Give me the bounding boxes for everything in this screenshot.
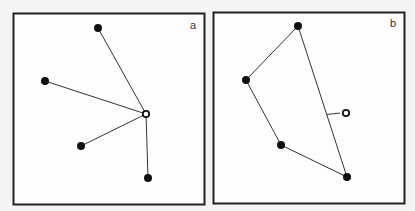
panel-b-frame [214, 13, 405, 204]
filled-point [242, 76, 250, 84]
figure: a b [0, 0, 415, 211]
panel-b: b [214, 13, 405, 204]
filled-point [294, 22, 302, 30]
filled-point [41, 77, 49, 85]
panel-a-frame [14, 14, 205, 205]
open-point [343, 110, 349, 116]
panel-a: a [14, 14, 205, 205]
open-point [143, 111, 149, 117]
filled-point [77, 142, 85, 150]
filled-point [144, 174, 152, 182]
filled-point [277, 141, 285, 149]
panel-b-label: b [390, 17, 396, 29]
filled-point [94, 24, 102, 32]
filled-point [343, 173, 351, 181]
panel-a-label: a [190, 19, 197, 31]
